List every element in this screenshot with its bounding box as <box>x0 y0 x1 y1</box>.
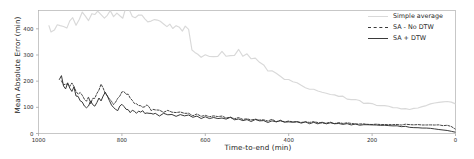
x-axis-title: Time-to-end (min) <box>0 143 474 152</box>
x-tick-label: 0 <box>441 137 471 143</box>
x-tick-label: 400 <box>274 137 304 143</box>
chart-legend: Simple average SA - No DTW SA + DTW <box>368 11 462 44</box>
legend-label-sa-dtw: SA + DTW <box>393 35 426 41</box>
x-tick-label: 200 <box>357 137 387 143</box>
x-tick-label: 800 <box>107 137 137 143</box>
legend-line-sa-dtw <box>368 38 388 39</box>
y-tick-label: 400 <box>12 26 34 32</box>
legend-item-sa-no-dtw: SA - No DTW <box>368 22 462 33</box>
legend-label-simple-average: Simple average <box>393 13 443 19</box>
legend-label-sa-no-dtw: SA - No DTW <box>393 24 434 30</box>
legend-line-simple-average <box>368 16 388 17</box>
x-tick-label: 600 <box>190 137 220 143</box>
legend-item-sa-dtw: SA + DTW <box>368 33 462 44</box>
y-tick-label: 100 <box>12 104 34 110</box>
y-tick-label: 0 <box>12 131 34 137</box>
x-tick-label: 1000 <box>24 137 54 143</box>
y-tick-label: 300 <box>12 52 34 58</box>
chart-figure: Mean Absolute Error (min) Time-to-end (m… <box>0 0 474 159</box>
legend-item-simple-average: Simple average <box>368 11 462 22</box>
legend-line-sa-no-dtw <box>368 27 388 28</box>
y-tick-label: 200 <box>12 78 34 84</box>
